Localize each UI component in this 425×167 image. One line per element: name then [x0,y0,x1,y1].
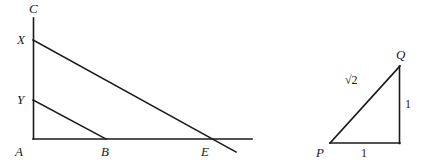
label-point-c: C [29,2,38,15]
figure-canvas: C X Y A B E Q P √2 1 1 [0,0,425,167]
label-point-a: A [15,145,23,158]
segment-x-e-extended [33,40,236,152]
label-point-x: X [17,33,25,46]
label-point-e: E [201,145,209,158]
label-point-q: Q [396,48,405,61]
segment-y-b [33,100,106,139]
label-point-p: P [316,146,324,159]
geometry-lines [0,0,425,167]
label-base-leg-length: 1 [361,147,367,159]
label-vertical-leg-length: 1 [405,98,411,110]
label-point-y: Y [17,93,24,106]
label-point-b: B [101,145,109,158]
segment-pq-hypotenuse [330,66,400,143]
label-hypotenuse-length: √2 [345,74,358,86]
